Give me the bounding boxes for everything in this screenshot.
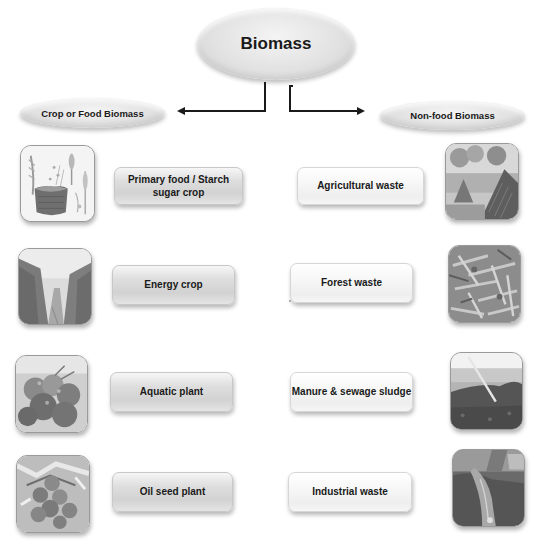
node-industrial-waste: Industrial waste [288,472,412,512]
category-left-label: Crop or Food Biomass [41,108,143,119]
node-label: Industrial waste [312,485,388,499]
aquatic-plant-photo-icon [15,355,88,433]
oil-seed-fruit-photo-icon [16,455,90,533]
node-energy-crop: Energy crop [112,265,235,305]
node-label: Manure & sewage sludge [292,385,411,399]
category-crop-food-biomass: Crop or Food Biomass [20,98,165,128]
wood-debris-photo-icon [448,245,521,323]
node-label: Forest waste [321,276,382,290]
arrow-left-icon [177,107,185,115]
node-label: Oil seed plant [140,485,206,499]
root-node-label: Biomass [241,34,312,54]
node-aquatic-plant: Aquatic plant [110,372,233,412]
node-agricultural-waste: Agricultural waste [297,167,424,205]
tree-plantation-photo-icon [18,248,92,325]
node-label: Energy crop [144,278,202,292]
node-label: Aquatic plant [140,385,203,399]
node-label: Primary food / Starch sugar crop [115,173,242,200]
arrow-right-icon [357,107,365,115]
node-oil-seed-plant: Oil seed plant [112,472,233,512]
stray-dot [289,300,291,302]
industrial-discharge-photo-icon [452,449,525,527]
category-non-food-biomass: Non-food Biomass [380,101,525,130]
category-right-label: Non-food Biomass [410,110,494,121]
node-label: Agricultural waste [317,179,404,193]
node-forest-waste: Forest waste [290,263,413,303]
hay-stack-photo-icon [445,143,519,220]
root-node-biomass: Biomass [197,8,355,80]
manure-pile-photo-icon [450,352,523,430]
grain-sack-photo-icon [20,145,95,222]
node-manure-sewage-sludge: Manure & sewage sludge [290,372,413,412]
node-primary-food-starch-sugar-crop: Primary food / Starch sugar crop [114,167,243,205]
